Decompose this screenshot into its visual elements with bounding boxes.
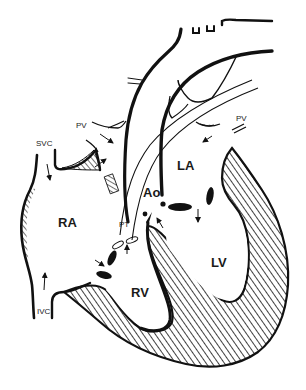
arrow-ivc-up (44, 273, 45, 290)
svc-septum-hatch (62, 150, 100, 170)
arrow-pv-left (100, 134, 113, 143)
pt-hatch-block (104, 174, 119, 194)
pulmonary-veins-left (86, 121, 126, 152)
label-lv: LV (211, 255, 227, 270)
heart-diagram: SVC PV PV LA Ao RA PT LV RV IVC (0, 0, 306, 390)
label-pt: PT (119, 220, 129, 229)
label-la: LA (177, 158, 195, 173)
pulmonary-veins-right (196, 122, 246, 133)
arrow-svc-down (47, 164, 50, 180)
label-svc: SVC (36, 139, 53, 148)
label-ivc: IVC (37, 307, 51, 316)
label-ra: RA (58, 215, 77, 230)
label-pv-left: PV (76, 121, 87, 130)
label-rv: RV (131, 285, 149, 300)
label-ao: Ao (143, 185, 160, 200)
arrow-lv-ao (157, 218, 163, 228)
label-pv-right: PV (236, 114, 247, 123)
arrow-ra-rv (95, 260, 104, 266)
arrow-pv-right (203, 136, 212, 142)
